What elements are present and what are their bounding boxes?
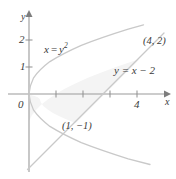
parabola-equation-label: x=y2 — [44, 42, 68, 55]
point-label-lower: (1, −1) — [62, 121, 92, 132]
parabola-eq-lhs: x — [44, 43, 49, 55]
y-tick-label-2: 2 — [19, 34, 25, 45]
parabola-eq-operator: = — [51, 43, 57, 55]
parabola-eq-rhs-exponent: 2 — [64, 41, 68, 50]
origin-label: 0 — [18, 99, 24, 110]
x-tick-label-4: 4 — [134, 99, 140, 110]
math-figure: 2 1 0 4 y x x=y2 y = x − 2 (4, 2) (1, −1… — [0, 0, 176, 179]
y-tick-label-1: 1 — [20, 61, 26, 72]
line-equation-label: y = x − 2 — [114, 65, 155, 76]
y-axis-label: y — [21, 12, 25, 22]
point-label-upper: (4, 2) — [143, 36, 166, 47]
plot-canvas — [0, 0, 176, 179]
y-axis-arrowhead — [26, 10, 33, 17]
x-axis-label: x — [165, 97, 169, 107]
